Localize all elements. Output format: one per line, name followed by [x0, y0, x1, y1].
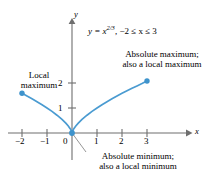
local-maximum-annotation: Local maximum — [10, 70, 68, 90]
x-tick-label-1: 1 — [94, 136, 99, 146]
x-tick-label-neg1: −1 — [40, 136, 50, 146]
local-maximum-line1: Local — [10, 70, 68, 80]
x-tick-label-0: 0 — [63, 136, 68, 146]
equation-label: y = x2/3, −2 ≤ x ≤ 3 — [88, 24, 157, 36]
x-axis-arrow-icon — [186, 130, 193, 137]
local-maximum-line2: maximum — [10, 80, 68, 90]
local-max-point — [19, 91, 24, 96]
equation-left: y = x — [88, 26, 107, 36]
x-tick-label-neg2: −2 — [15, 136, 25, 146]
absolute-minimum-line1: Absolute minimum; — [86, 151, 190, 161]
x-tick-label-2: 2 — [119, 136, 124, 146]
absolute-minimum-line2: also a local minimum — [86, 161, 190, 171]
absolute-max-point — [144, 78, 149, 83]
y-tick-label-1: 1 — [58, 103, 63, 113]
absolute-min-leader-line — [74, 135, 87, 152]
absolute-maximum-annotation: Absolute maximum; also a local maximum — [113, 49, 211, 69]
x-tick-label-3: 3 — [144, 136, 149, 146]
y-axis-label: y — [74, 10, 78, 20]
equation-domain: , −2 ≤ x ≤ 3 — [115, 26, 157, 36]
graph-figure: y = x2/3, −2 ≤ x ≤ 3 x y −2 −1 0 1 2 3 1… — [0, 0, 214, 185]
absolute-maximum-line1: Absolute maximum; — [113, 49, 211, 59]
equation-exponent: 2/3 — [107, 24, 115, 31]
absolute-maximum-line2: also a local maximum — [113, 59, 211, 69]
x-axis-label: x — [195, 127, 199, 137]
absolute-minimum-annotation: Absolute minimum; also a local minimum — [86, 151, 190, 171]
